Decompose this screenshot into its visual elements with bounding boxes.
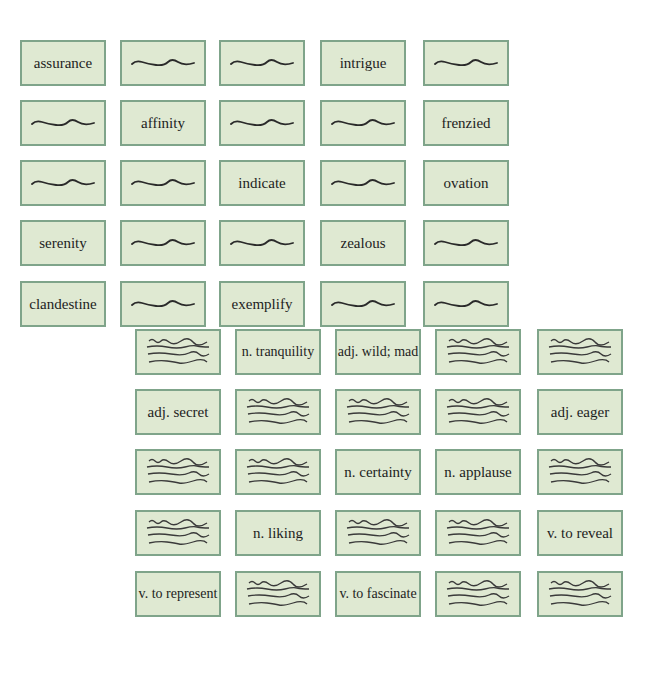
definition-card[interactable]: v. to fascinate [335, 571, 421, 617]
wavy-line-icon [330, 176, 396, 190]
definition-card[interactable]: n. tranquility [235, 329, 321, 375]
blank-definition-card[interactable] [235, 571, 321, 617]
text-lines-icon [445, 396, 511, 428]
blank-word-card[interactable] [320, 160, 406, 206]
word-label: serenity [39, 235, 86, 252]
definition-label: v. to fascinate [339, 586, 416, 602]
text-lines-icon [245, 578, 311, 610]
word-card[interactable]: exemplify [219, 281, 305, 327]
blank-word-card[interactable] [423, 281, 509, 327]
word-label: intrigue [340, 55, 387, 72]
word-label: assurance [34, 55, 92, 72]
word-label: clandestine [29, 296, 96, 313]
word-label: exemplify [232, 296, 293, 313]
definition-label: v. to represent [139, 586, 218, 602]
blank-definition-card[interactable] [235, 389, 321, 435]
blank-definition-card[interactable] [335, 510, 421, 556]
wavy-line-icon [130, 297, 196, 311]
blank-word-card[interactable] [219, 100, 305, 146]
blank-definition-card[interactable] [435, 510, 521, 556]
definition-card[interactable]: n. certainty [335, 449, 421, 495]
word-card[interactable]: frenzied [423, 100, 509, 146]
definition-card[interactable]: n. applause [435, 449, 521, 495]
text-lines-icon [547, 336, 613, 368]
blank-word-card[interactable] [423, 40, 509, 86]
definition-label: n. liking [253, 525, 303, 542]
wavy-line-icon [330, 297, 396, 311]
text-lines-icon [145, 456, 211, 488]
text-lines-icon [245, 456, 311, 488]
wavy-line-icon [229, 56, 295, 70]
blank-word-card[interactable] [120, 281, 206, 327]
blank-definition-card[interactable] [435, 329, 521, 375]
text-lines-icon [445, 517, 511, 549]
blank-word-card[interactable] [120, 220, 206, 266]
wavy-line-icon [30, 176, 96, 190]
word-label: ovation [444, 175, 489, 192]
text-lines-icon [345, 396, 411, 428]
definition-card[interactable]: adj. wild; mad [335, 329, 421, 375]
text-lines-icon [245, 396, 311, 428]
blank-definition-card[interactable] [537, 571, 623, 617]
blank-definition-card[interactable] [537, 329, 623, 375]
text-lines-icon [445, 578, 511, 610]
definition-label: n. certainty [344, 464, 411, 481]
wavy-line-icon [229, 236, 295, 250]
definition-label: n. tranquility [242, 344, 314, 360]
wavy-line-icon [229, 116, 295, 130]
text-lines-icon [547, 456, 613, 488]
definition-card[interactable]: v. to represent [135, 571, 221, 617]
blank-word-card[interactable] [20, 160, 106, 206]
wavy-line-icon [130, 56, 196, 70]
text-lines-icon [547, 578, 613, 610]
word-card[interactable]: serenity [20, 220, 106, 266]
definition-label: adj. eager [551, 404, 609, 421]
word-card[interactable]: zealous [320, 220, 406, 266]
blank-definition-card[interactable] [537, 449, 623, 495]
wavy-line-icon [30, 116, 96, 130]
definition-card[interactable]: v. to reveal [537, 510, 623, 556]
definition-label: adj. wild; mad [338, 344, 419, 360]
text-lines-icon [345, 517, 411, 549]
blank-definition-card[interactable] [135, 449, 221, 495]
blank-word-card[interactable] [320, 100, 406, 146]
blank-word-card[interactable] [120, 40, 206, 86]
blank-definition-card[interactable] [435, 571, 521, 617]
wavy-line-icon [433, 56, 499, 70]
blank-word-card[interactable] [219, 40, 305, 86]
word-label: indicate [238, 175, 285, 192]
wavy-line-icon [330, 116, 396, 130]
word-card[interactable]: intrigue [320, 40, 406, 86]
word-card[interactable]: indicate [219, 160, 305, 206]
blank-definition-card[interactable] [335, 389, 421, 435]
blank-definition-card[interactable] [135, 510, 221, 556]
text-lines-icon [145, 517, 211, 549]
word-card[interactable]: ovation [423, 160, 509, 206]
definition-card[interactable]: adj. secret [135, 389, 221, 435]
definition-card[interactable]: n. liking [235, 510, 321, 556]
definition-label: n. applause [444, 464, 511, 481]
word-label: frenzied [441, 115, 490, 132]
word-card[interactable]: affinity [120, 100, 206, 146]
wavy-line-icon [433, 297, 499, 311]
word-card[interactable]: assurance [20, 40, 106, 86]
blank-word-card[interactable] [219, 220, 305, 266]
blank-definition-card[interactable] [135, 329, 221, 375]
blank-definition-card[interactable] [235, 449, 321, 495]
text-lines-icon [145, 336, 211, 368]
wavy-line-icon [433, 236, 499, 250]
blank-word-card[interactable] [120, 160, 206, 206]
wavy-line-icon [130, 176, 196, 190]
word-label: zealous [341, 235, 386, 252]
blank-word-card[interactable] [20, 100, 106, 146]
blank-definition-card[interactable] [435, 389, 521, 435]
definition-label: adj. secret [148, 404, 209, 421]
text-lines-icon [445, 336, 511, 368]
word-label: affinity [141, 115, 185, 132]
definition-card[interactable]: adj. eager [537, 389, 623, 435]
blank-word-card[interactable] [423, 220, 509, 266]
definition-label: v. to reveal [547, 525, 613, 542]
blank-word-card[interactable] [320, 281, 406, 327]
word-card[interactable]: clandestine [20, 281, 106, 327]
wavy-line-icon [130, 236, 196, 250]
